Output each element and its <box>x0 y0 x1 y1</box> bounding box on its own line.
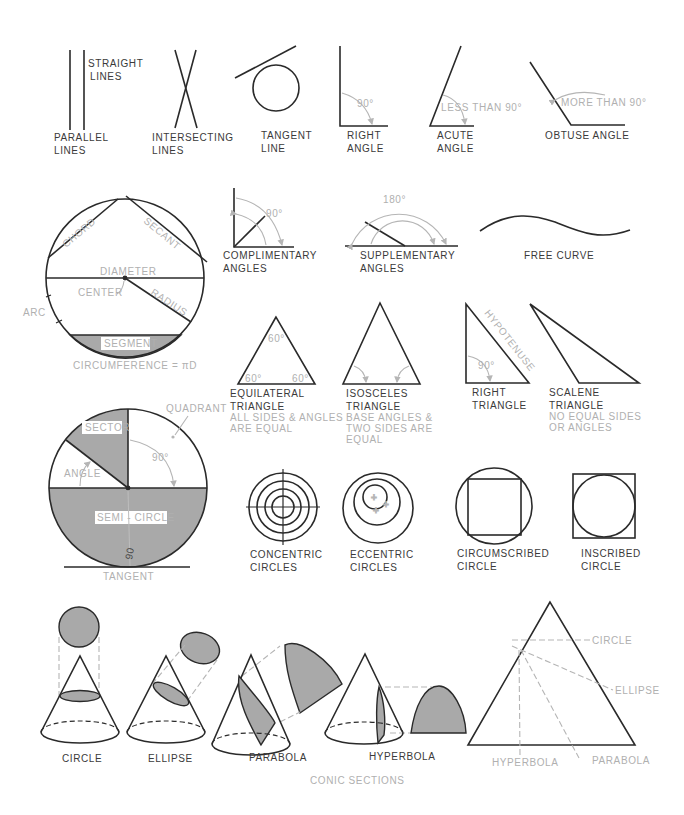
scalene-label-1: SCALENE <box>549 387 600 398</box>
concentric-label-1: CONCENTRIC <box>250 549 323 560</box>
acute-angle-label-2: ANGLE <box>437 143 474 154</box>
radius-label: RADIUS <box>149 286 190 318</box>
conic-hyperbola-label: HYPERBOLA <box>369 751 436 762</box>
circumscribed-label-2: CIRCLE <box>457 561 497 572</box>
isosceles-label-1: ISOSCELES <box>346 388 408 399</box>
supplementary-angles-figure: 180° SUPPLEMENTARY ANGLES <box>345 194 458 274</box>
complimentary-label-2: ANGLES <box>223 263 267 274</box>
equilateral-triangle-figure: 60° 60° 60° EQUILATERAL TRIANGLE ALL SID… <box>230 317 343 434</box>
intersecting-label-2: LINES <box>152 145 184 156</box>
isosceles-triangle-figure: ISOSCELES TRIANGLE BASE ANGLES & TWO SID… <box>343 303 433 445</box>
conic-circle-figure: CIRCLE <box>41 607 119 764</box>
circumference-label: CIRCUMFERENCE = πD <box>73 360 197 371</box>
arc-label: ARC <box>23 307 46 318</box>
isosceles-label-2: TRIANGLE <box>346 401 401 412</box>
tangent-line-figure: TANGENT LINE <box>235 46 312 154</box>
obtuse-angle-figure: MORE THAN 90° OBTUSE ANGLE <box>530 62 647 141</box>
isosceles-note-3: EQUAL <box>346 434 383 445</box>
straight-label-2: LINES <box>90 71 122 82</box>
equilateral-angle-top: 60° <box>268 333 285 344</box>
geometry-reference-sheet: STRAIGHT LINES PARALLEL LINES INTERSECTI… <box>0 0 684 815</box>
secant-label: SECANT <box>142 215 183 252</box>
quadrant-label: QUADRANT <box>166 403 227 414</box>
right-angle-figure: 90° RIGHT ANGLE <box>340 46 388 154</box>
circumscribed-circle-figure: CIRCUMSCRIBED CIRCLE <box>456 468 549 572</box>
equilateral-angle-right: 60° <box>292 373 309 384</box>
obtuse-angle-label: OBTUSE ANGLE <box>545 130 629 141</box>
eccentric-label-1: ECCENTRIC <box>350 549 414 560</box>
angle-label: ANGLE <box>64 468 101 479</box>
scalene-label-2: TRIANGLE <box>549 400 604 411</box>
eccentric-label-2: CIRCLES <box>350 562 398 573</box>
equilateral-label-2: TRIANGLE <box>230 401 285 412</box>
svg-text:+: + <box>373 505 379 516</box>
parallel-label-1: PARALLEL <box>54 132 109 143</box>
supplementary-label-2: ANGLES <box>360 263 404 274</box>
tangent-label-2: LINE <box>261 143 286 154</box>
scalene-note-2: OR ANGLES <box>549 422 612 433</box>
equilateral-angle-left: 60° <box>245 373 262 384</box>
scalene-triangle-figure: SCALENE TRIANGLE NO EQUAL SIDES OR ANGLE… <box>530 304 642 433</box>
right-angle-label-2: ANGLE <box>347 143 384 154</box>
conic-sections-caption: CONIC SECTIONS <box>310 775 405 786</box>
supplementary-note: 180° <box>383 194 406 205</box>
concentric-label-2: CIRCLES <box>250 562 298 573</box>
inscribed-label-1: INSCRIBED <box>581 548 641 559</box>
svg-text:+: + <box>371 492 377 503</box>
conic-parabola-label: PARABOLA <box>249 752 307 763</box>
right-triangle-figure: 90° HYPOTENUSE RIGHT TRIANGLE <box>466 304 537 411</box>
intersecting-label-1: INTERSECTING <box>152 132 234 143</box>
circumscribed-label-1: CIRCUMSCRIBED <box>457 548 549 559</box>
isosceles-note-2: TWO SIDES ARE <box>346 423 433 434</box>
isosceles-note-1: BASE ANGLES & <box>346 412 433 423</box>
segment-label: SEGMENT <box>104 338 158 349</box>
key-hyperbola-label: HYPERBOLA <box>492 757 559 768</box>
complimentary-note: 90° <box>266 208 283 219</box>
svg-text:+: + <box>383 499 389 510</box>
equilateral-note-2: ARE EQUAL <box>230 423 293 434</box>
semicircle-label: SEMI - CIRCLE <box>97 512 175 523</box>
circle-regions-figure: 90° QUADRANT SECTOR ANGLE SEMI - CIRCLE … <box>49 403 227 582</box>
conic-ellipse-label: ELLIPSE <box>148 753 193 764</box>
equilateral-note-1: ALL SIDES & ANGLES <box>230 412 343 423</box>
acute-angle-label-1: ACUTE <box>437 130 474 141</box>
inscribed-circle-figure: INSCRIBED CIRCLE <box>573 474 641 572</box>
right-triangle-label-1: RIGHT <box>472 387 506 398</box>
right-angle-note: 90° <box>357 98 374 109</box>
conic-key-triangle-figure: CIRCLE ELLIPSE HYPERBOLA PARABOLA <box>468 602 660 768</box>
tangent-region-label: TANGENT <box>103 571 154 582</box>
right-triangle-label-2: TRIANGLE <box>472 400 527 411</box>
parallel-lines-figure: STRAIGHT LINES PARALLEL LINES <box>54 50 143 156</box>
conic-parabola-figure: PARABOLA <box>212 644 342 763</box>
right-angle-label-1: RIGHT <box>347 130 381 141</box>
key-parabola-label: PARABOLA <box>592 755 650 766</box>
circle-parts-figure: CHORD SECANT DIAMETER CENTER RADIUS ARC … <box>23 196 207 371</box>
complimentary-label-1: COMPLIMENTARY <box>223 250 317 261</box>
scalene-note-1: NO EQUAL SIDES <box>549 411 642 422</box>
conic-hyperbola-figure: HYPERBOLA <box>325 654 466 762</box>
equilateral-label-1: EQUILATERAL <box>230 388 305 399</box>
free-curve-label: FREE CURVE <box>524 250 594 261</box>
acute-angle-figure: LESS THAN 90° ACUTE ANGLE <box>430 46 522 154</box>
right-triangle-angle: 90° <box>478 360 495 371</box>
inscribed-label-2: CIRCLE <box>581 561 621 572</box>
acute-angle-note: LESS THAN 90° <box>441 102 522 113</box>
concentric-circles-figure: CONCENTRIC CIRCLES <box>246 469 323 573</box>
eccentric-circles-figure: + + + ECCENTRIC CIRCLES <box>343 473 414 573</box>
angle-90-label: 90° <box>152 452 169 463</box>
key-ellipse-label: ELLIPSE <box>615 685 660 696</box>
straight-label-1: STRAIGHT <box>88 58 143 69</box>
key-circle-label: CIRCLE <box>592 635 632 646</box>
complimentary-angles-figure: 90° COMPLIMENTARY ANGLES <box>223 188 317 274</box>
chord-label: CHORD <box>60 216 97 250</box>
sector-label: SECTOR <box>85 422 130 433</box>
supplementary-label-1: SUPPLEMENTARY <box>360 250 455 261</box>
tangent-label-1: TANGENT <box>261 130 312 141</box>
intersecting-lines-figure: INTERSECTING LINES <box>152 50 234 156</box>
diameter-label: DIAMETER <box>100 266 156 277</box>
conic-circle-label: CIRCLE <box>62 753 102 764</box>
handwritten-90: 90 <box>123 546 136 560</box>
center-label: CENTER <box>78 287 123 298</box>
free-curve-figure: FREE CURVE <box>480 216 630 261</box>
parallel-label-2: LINES <box>54 145 86 156</box>
